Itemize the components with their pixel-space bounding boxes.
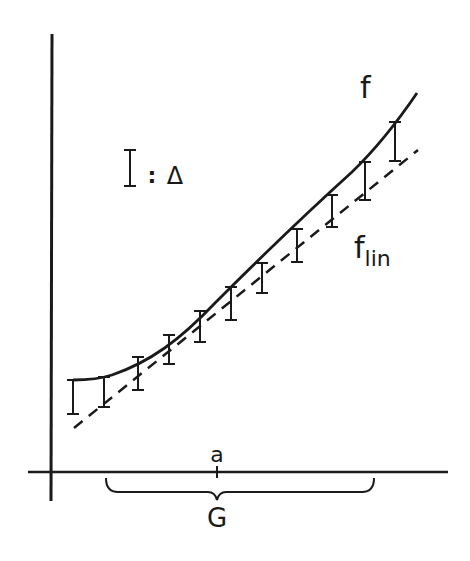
error-bars	[67, 122, 401, 414]
error-bar	[67, 380, 79, 414]
curve-f	[73, 93, 417, 380]
label-f-lin: flin	[354, 230, 391, 271]
diagram-canvas: a G : Δ f flin	[0, 0, 470, 561]
label-f-lin-subscript: lin	[365, 246, 391, 271]
y-axis	[51, 34, 52, 501]
brace-G	[106, 478, 374, 500]
error-bar	[98, 377, 110, 407]
legend-error-bar-icon	[124, 150, 136, 186]
legend-delta: Δ	[167, 162, 184, 190]
label-a: a	[210, 442, 223, 467]
legend-colon: :	[148, 163, 157, 188]
legend: : Δ	[124, 150, 184, 190]
error-bar	[359, 162, 371, 200]
label-f: f	[360, 70, 372, 105]
label-G: G	[207, 503, 227, 533]
curve-f-lin	[74, 150, 418, 428]
